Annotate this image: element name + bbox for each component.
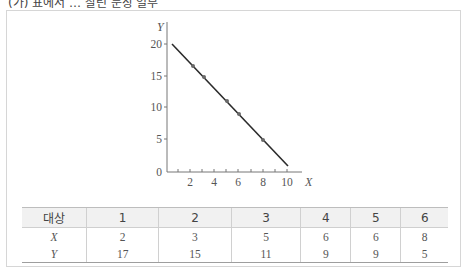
header-cell: 1 [87, 208, 159, 228]
y-tick-label: 10 [151, 101, 163, 113]
y-tick-label: 5 [156, 133, 162, 145]
table-cell: 5 [231, 228, 301, 246]
table-cell: 2 [87, 228, 159, 246]
header-cell: 4 [301, 208, 351, 228]
table-cell: 9 [351, 245, 401, 263]
table-row: Y 17 15 11 9 9 5 [22, 245, 448, 263]
header-cell: 6 [401, 208, 448, 228]
row-label: X [22, 228, 87, 246]
data-point [191, 64, 195, 68]
y-tick-label: 20 [151, 38, 163, 50]
table-cell: 17 [87, 245, 159, 263]
row-label: Y [22, 245, 87, 263]
x-tick-label: 4 [211, 176, 217, 188]
y-axis-label: Y [157, 20, 165, 34]
header-cell: 3 [231, 208, 301, 228]
header-cell: 5 [351, 208, 401, 228]
x-tick-label: 6 [235, 176, 241, 188]
data-table: 대상 1 2 3 4 5 6 X 2 3 5 6 6 8 Y 17 15 11 … [22, 207, 448, 263]
data-point [237, 112, 241, 116]
table-cell: 6 [351, 228, 401, 246]
data-point [225, 99, 229, 103]
table-row: X 2 3 5 6 6 8 [22, 228, 448, 246]
table-cell: 11 [231, 245, 301, 263]
y-tick-label: 15 [151, 70, 163, 82]
x-tick-label: 8 [260, 176, 266, 188]
table-header-row: 대상 1 2 3 4 5 6 [22, 208, 448, 228]
table-cell: 15 [159, 245, 231, 263]
data-point [202, 75, 206, 79]
table-cell: 9 [301, 245, 351, 263]
x-tick-label: 10 [281, 176, 293, 188]
table-cell: 8 [401, 228, 448, 246]
header-cell: 대상 [22, 208, 87, 228]
data-point [261, 138, 265, 142]
header-cell: 2 [159, 208, 231, 228]
x-axis-label: X [304, 175, 313, 189]
table-cell: 5 [401, 245, 448, 263]
regression-line [172, 44, 288, 166]
table-cell: 3 [159, 228, 231, 246]
table-cell: 6 [301, 228, 351, 246]
y-tick-label: 0 [156, 166, 162, 178]
x-tick-label: 2 [187, 176, 193, 188]
